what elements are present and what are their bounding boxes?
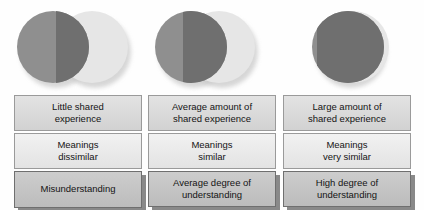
shared-experience-box[interactable]: Average amount of shared experience: [148, 95, 276, 131]
box-line-1: Average degree of: [153, 177, 271, 189]
meanings-box[interactable]: Meanings dissimilar: [14, 133, 142, 169]
box-line-2: experience: [19, 113, 137, 125]
box-line-1: Misunderstanding: [19, 183, 137, 195]
venn-group-3: [298, 0, 418, 90]
box-line-2: understanding: [153, 189, 271, 201]
venn-group-1: [14, 0, 144, 90]
venn-overlap-region: [56, 11, 89, 83]
column-little-shared-experience: Little shared experience Meanings dissim…: [14, 95, 142, 208]
box-line-1: Average amount of: [153, 101, 271, 113]
box-line-2: shared experience: [153, 113, 271, 125]
meanings-box[interactable]: Meanings similar: [148, 133, 276, 169]
shared-experience-box[interactable]: Large amount of shared experience: [283, 95, 411, 131]
box-line-1: Meanings: [19, 139, 137, 151]
box-line-2: similar: [153, 151, 271, 163]
box-line-2: dissimilar: [19, 151, 137, 163]
box-line-2: shared experience: [288, 113, 406, 125]
diagram-canvas: Little shared experience Meanings dissim…: [0, 0, 424, 210]
box-line-2: understanding: [288, 189, 406, 201]
venn-overlap-region: [183, 11, 227, 83]
box-line-1: Little shared: [19, 101, 137, 113]
column-large-shared-experience: Large amount of shared experience Meanin…: [283, 95, 411, 207]
venn-group-2: [152, 0, 282, 90]
venn-overlap-region: [317, 11, 384, 83]
box-line-1: Large amount of: [288, 101, 406, 113]
column-average-shared-experience: Average amount of shared experience Mean…: [148, 95, 276, 207]
box-line-1: High degree of: [288, 177, 406, 189]
understanding-box[interactable]: Misunderstanding: [14, 171, 142, 208]
box-line-2: very similar: [288, 151, 406, 163]
meanings-box[interactable]: Meanings very similar: [283, 133, 411, 169]
box-line-1: Meanings: [153, 139, 271, 151]
box-line-1: Meanings: [288, 139, 406, 151]
understanding-box[interactable]: High degree of understanding: [283, 171, 411, 207]
understanding-box[interactable]: Average degree of understanding: [148, 171, 276, 207]
shared-experience-box[interactable]: Little shared experience: [14, 95, 142, 131]
